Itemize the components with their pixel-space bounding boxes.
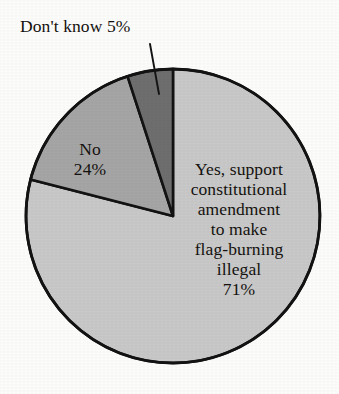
- slice-label-yes-line-6: illegal: [176, 260, 302, 280]
- slice-value-no: 24%: [47, 160, 133, 180]
- slice-label-dont-know: Don't know 5%: [20, 17, 188, 37]
- slice-label-no-name: No: [47, 140, 133, 160]
- slice-label-yes-line-2: constitutional: [176, 180, 302, 200]
- slice-value-yes: 71%: [176, 280, 302, 300]
- slice-label-yes-line-3: amendment: [176, 200, 302, 220]
- pie-chart: Yes, support constitutional amendment to…: [0, 0, 339, 394]
- slice-label-yes: Yes, support constitutional amendment to…: [176, 160, 302, 300]
- slice-label-yes-line-5: flag-burning: [176, 240, 302, 260]
- slice-label-no: No 24%: [47, 140, 133, 180]
- slice-label-yes-line-1: Yes, support: [176, 160, 302, 180]
- slice-label-dont-know-text: Don't know 5%: [20, 17, 188, 37]
- slice-label-yes-line-4: to make: [176, 220, 302, 240]
